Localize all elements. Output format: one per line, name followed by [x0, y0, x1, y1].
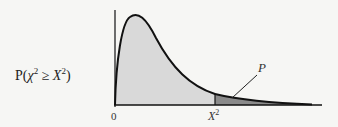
- chi-square-diagram: [0, 0, 338, 127]
- tail-label: P: [258, 60, 266, 76]
- critical-value-label: X2: [208, 108, 219, 124]
- tail-pointer-line: [232, 75, 257, 98]
- critical-exponent: 2: [215, 108, 219, 117]
- relation-symbol: ≥: [38, 68, 53, 83]
- prob-suffix: ): [66, 68, 71, 83]
- origin-label: 0: [111, 110, 117, 122]
- prob-prefix: P(: [15, 68, 27, 83]
- body-area: [115, 15, 215, 105]
- probability-expression: P(χ2 ≥ X2): [15, 66, 71, 84]
